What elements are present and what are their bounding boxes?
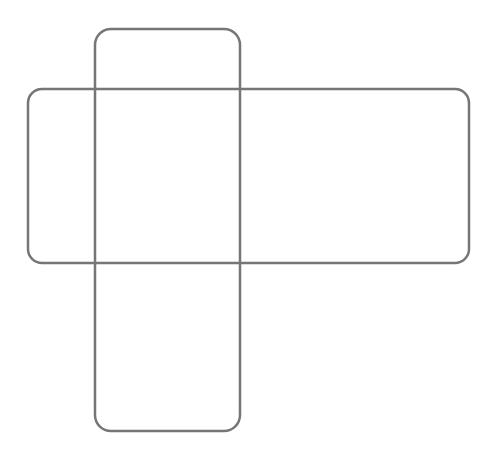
cross-diagram xyxy=(0,0,497,452)
